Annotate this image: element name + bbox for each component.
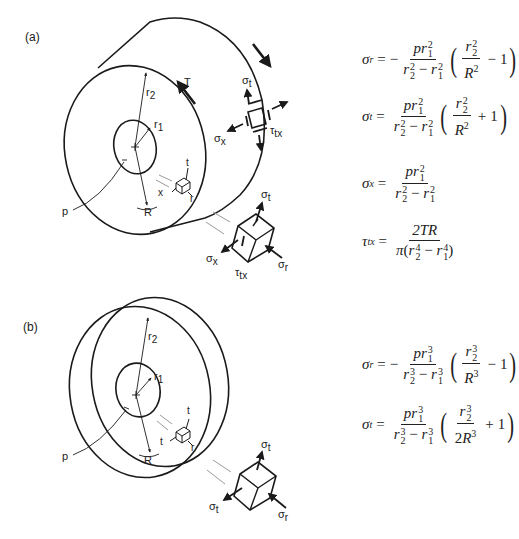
axis-t-label-b1: t: [187, 405, 190, 416]
tau-tx-surface-label: τtx: [270, 124, 282, 139]
axis-r-label-b: r: [191, 442, 194, 453]
axis-r-label-a: r: [190, 193, 193, 204]
sigma-r-element-label-a: σr: [278, 258, 288, 273]
outer-radius-label-b: r2: [148, 330, 157, 345]
sigma-x-element-label-a: σx: [206, 252, 218, 267]
sigma-x-surface-label: σx: [214, 132, 226, 147]
torque-arrows: [178, 44, 270, 104]
radius-R-label-b: R: [144, 454, 152, 466]
sigma-t-surface-label: σt: [242, 74, 252, 89]
exploded-element-b: [207, 452, 286, 510]
sigma-t-element-label-a: σt: [261, 188, 271, 203]
outer-radius-label-a: r2: [146, 86, 155, 101]
pressure-label-b: p: [62, 450, 68, 462]
inner-radius-label-a: r1: [154, 118, 163, 133]
sigma-t-element-label-b1: σt: [261, 438, 271, 453]
panel-label-b: (b): [23, 320, 38, 334]
equation-sigma-r-cylinder: σr =− pr21r22 − r21 (r22R2−1): [362, 38, 519, 82]
axis-t-label-b2: t: [160, 436, 163, 447]
surface-element-a: [228, 90, 287, 150]
tau-tx-element-label-a: τtx: [235, 266, 247, 281]
axis-x-label-a: x: [158, 187, 163, 198]
torque-label: T: [184, 76, 191, 88]
equation-sigma-t-cylinder: σt = pr21r22 − r21 (r22R2+1): [362, 95, 509, 139]
inner-radius-label-b: r1: [154, 370, 163, 385]
pressure-label-a: p: [62, 205, 68, 217]
equation-sigma-x-cylinder: σx = pr21r22 − r21: [362, 163, 440, 203]
sigma-r-element-label-b: σr: [278, 508, 288, 523]
panel-label-a: (a): [25, 30, 40, 44]
cylinder-dimensions: [73, 73, 157, 210]
equation-sigma-t-disk: σt = pr31r32 − r31 (r322R3+1): [362, 403, 517, 447]
axis-t-label-a: t: [186, 157, 189, 168]
equation-tau-tx-cylinder: τtx = 2TRπ(r42 − r41): [362, 222, 458, 261]
sigma-t-element-label-b2: σt: [209, 500, 219, 515]
equation-sigma-r-disk: σr =− pr31r32 − r31 (r32R3−1): [362, 343, 519, 387]
radius-R-label-a: R: [144, 206, 152, 218]
